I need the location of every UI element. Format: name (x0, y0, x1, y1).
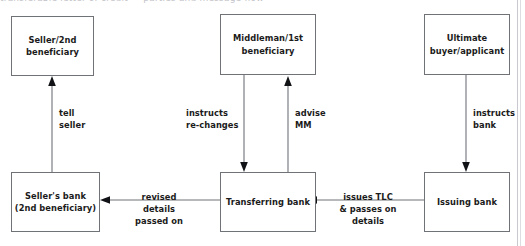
node-seller-2nd-beneficiary[interactable]: Seller/2nd beneficiary (11, 16, 94, 76)
arrow-advise-mm (284, 76, 292, 172)
diagram-canvas: transferable letter of credit — parties … (0, 0, 525, 246)
edge-label-instructs-re-changes: instructs re-changes (186, 108, 244, 132)
node-issuing-bank[interactable]: Issuing bank (424, 172, 510, 232)
edge-label-tell-seller: tell seller (59, 108, 119, 132)
edge-label-instructs-bank: instructs bank (473, 108, 523, 132)
node-ultimate-buyer-applicant-label: Ultimate buyer/applicant (427, 32, 507, 56)
node-sellers-bank-label: Seller's bank (2nd beneficiary) (14, 190, 97, 214)
edge-label-advise-mm: advise MM (295, 108, 345, 132)
edge-label-issues-tlc: issues TLC & passes on details (318, 192, 418, 227)
arrow-instructs-bank (462, 75, 470, 172)
node-sellers-bank[interactable]: Seller's bank (2nd beneficiary) (11, 172, 100, 232)
node-issuing-bank-label: Issuing bank (437, 196, 497, 208)
node-middleman-1st-beneficiary-label: Middleman/1st beneficiary (223, 32, 313, 56)
edge-label-revised-details-passed-on: revised details passed on (111, 192, 207, 227)
node-seller-2nd-beneficiary-label: Seller/2nd beneficiary (14, 34, 91, 58)
node-ultimate-buyer-applicant[interactable]: Ultimate buyer/applicant (424, 14, 510, 75)
arrow-tell-seller (48, 76, 56, 172)
node-transferring-bank-label: Transferring bank (226, 196, 310, 208)
node-middleman-1st-beneficiary[interactable]: Middleman/1st beneficiary (220, 14, 316, 75)
node-transferring-bank[interactable]: Transferring bank (220, 172, 316, 232)
